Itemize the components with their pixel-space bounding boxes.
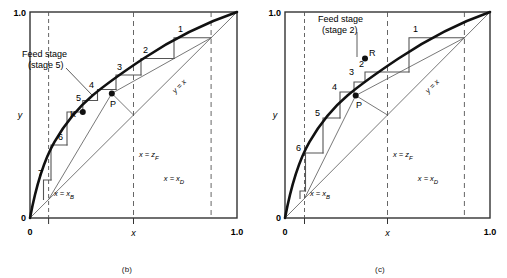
panel-c-caption: (c) — [253, 265, 507, 274]
point-R-label: R — [369, 48, 376, 58]
feed-stage-label-line2: (stage 5) — [28, 60, 64, 70]
rectifying-operating-line — [356, 38, 465, 96]
y-axis-max-tick: 1.0 — [13, 8, 26, 18]
mccabe-thiele-plot-b: 1.0 0 y 0 1.0 x Feed stage (stage 5) 1 2… — [0, 0, 254, 260]
stage-label-2: 2 — [359, 59, 364, 69]
xd-line-label: x = xD — [163, 174, 185, 185]
stage-label-6: 6 — [58, 132, 63, 142]
stage-label-1: 1 — [413, 24, 418, 34]
feed-stage-label-line1: Feed stage — [22, 49, 67, 59]
point-P-label: P — [110, 99, 116, 109]
panel-b: 1.0 0 y 0 1.0 x Feed stage (stage 5) 1 2… — [0, 0, 254, 278]
xb-line-label: x = xB — [309, 189, 330, 200]
x-axis-label: x — [130, 228, 136, 238]
y-axis-label: y — [17, 110, 23, 120]
point-P-marker — [109, 90, 115, 96]
feed-stage-label-line2: (stage 2) — [322, 25, 358, 35]
panel-c: 1.0 0 y 0 1.0 x Feed stage (stage 2) 1 2… — [253, 0, 507, 278]
xb-line-label: x = xB — [53, 189, 74, 200]
stage-label-5: 5 — [315, 108, 320, 118]
x-axis-min-tick: 0 — [27, 227, 32, 237]
y-axis-min-tick: 0 — [21, 213, 26, 223]
panel-b-caption: (b) — [0, 265, 254, 274]
zf-line-label: x = zF — [392, 150, 413, 161]
xd-line-label: x = xD — [417, 174, 439, 185]
diagonal-label: y = x — [170, 77, 189, 96]
stage-label-2: 2 — [143, 45, 148, 55]
mccabe-thiele-plot-c: 1.0 0 y 0 1.0 x Feed stage (stage 2) 1 2… — [253, 0, 507, 260]
point-P-label: P — [356, 100, 362, 110]
x-axis-label: x — [384, 228, 390, 238]
zf-line-label: x = zF — [138, 150, 159, 161]
y-axis-min-tick: 0 — [276, 213, 281, 223]
stage-label-5: 5 — [76, 93, 81, 103]
stage-label-6: 6 — [296, 143, 301, 153]
x-axis-max-tick: 1.0 — [231, 227, 244, 237]
x-axis-min-tick: 0 — [282, 227, 287, 237]
diagonal-label-group: y = x — [423, 77, 442, 96]
feed-stage-label-line1: Feed stage — [318, 14, 363, 24]
y-axis-label: y — [272, 110, 278, 120]
stage-label-3: 3 — [117, 62, 122, 72]
y-axis-max-tick: 1.0 — [268, 8, 281, 18]
figure-sheet: 1.0 0 y 0 1.0 x Feed stage (stage 5) 1 2… — [0, 0, 507, 278]
diagonal-label-group: y = x — [170, 77, 189, 96]
stage-label-3: 3 — [349, 67, 354, 77]
point-K-label: K — [70, 109, 76, 119]
point-K-marker — [80, 109, 86, 115]
point-P-marker — [353, 93, 359, 99]
stage-label-4: 4 — [332, 82, 337, 92]
diagonal-label: y = x — [423, 77, 442, 96]
stage-label-4: 4 — [89, 80, 94, 90]
x-axis-max-tick: 1.0 — [484, 227, 497, 237]
stage-label-1: 1 — [178, 24, 183, 34]
stage-label-7: 7 — [38, 168, 43, 178]
